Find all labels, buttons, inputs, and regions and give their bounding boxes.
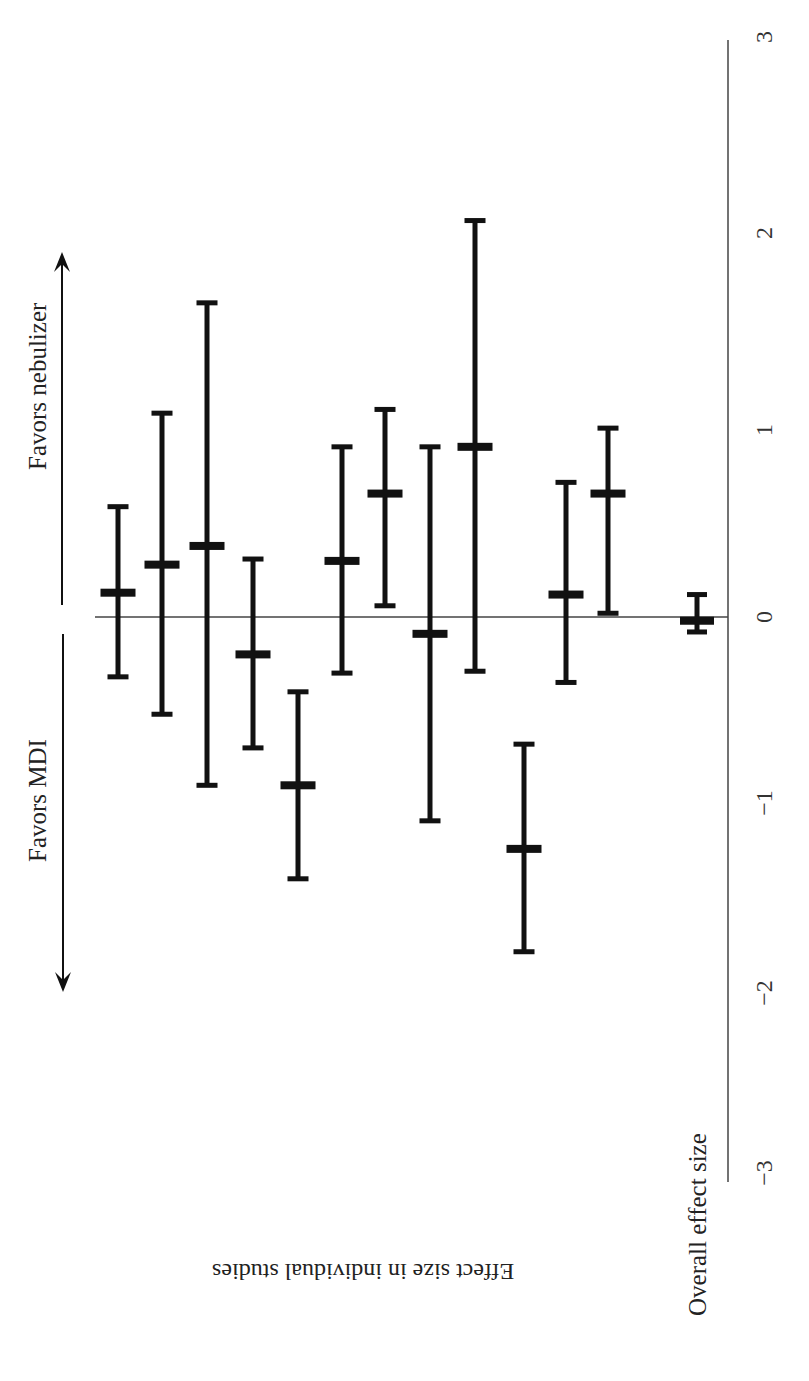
study-bar xyxy=(145,411,180,717)
study-bar xyxy=(368,407,403,608)
arrow-up-icon xyxy=(54,252,70,605)
overall-bar xyxy=(680,592,714,634)
study-bar xyxy=(236,557,271,751)
overall-effect-bar xyxy=(680,592,714,634)
favors-mdi-label: Favors MDI xyxy=(24,739,52,862)
study-bar xyxy=(325,444,360,675)
study-bar xyxy=(591,426,626,616)
study-bar xyxy=(507,742,542,955)
tick-label: −1 xyxy=(751,790,778,816)
study-bar xyxy=(458,218,493,674)
overall-effect-label: Overall effect size xyxy=(684,1133,712,1316)
tick-label: 1 xyxy=(751,424,778,436)
individual-studies-label: Effect size in individual studies xyxy=(212,1258,514,1285)
tick-label: 2 xyxy=(751,227,778,239)
study-bar xyxy=(190,300,225,787)
tick-label: −3 xyxy=(751,1160,778,1186)
study-bar xyxy=(101,504,136,679)
cropped-caption-edge xyxy=(796,0,809,1381)
study-error-bars xyxy=(101,218,626,954)
arrow-down-icon xyxy=(55,634,71,992)
tick-label: −2 xyxy=(751,980,778,1006)
study-bar xyxy=(549,480,584,685)
study-bar xyxy=(281,689,316,881)
favors-nebulizer-label: Favors nebulizer xyxy=(24,303,52,470)
tick-label: 3 xyxy=(751,31,778,43)
study-bar xyxy=(413,444,448,823)
tick-label: 0 xyxy=(751,611,778,623)
